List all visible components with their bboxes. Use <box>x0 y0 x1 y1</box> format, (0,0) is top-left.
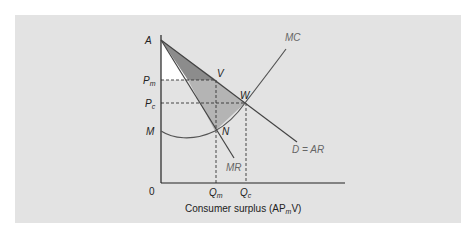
point-w-label: W <box>240 90 251 101</box>
qm-label: Qm <box>209 187 223 199</box>
mc-label: MC <box>285 32 301 43</box>
pc-label: Pc <box>145 98 156 110</box>
light-shaded-area <box>188 80 245 131</box>
mr-label: MR <box>226 162 242 173</box>
demand-label: D = AR <box>292 144 324 155</box>
qc-label: Qc <box>240 187 252 199</box>
figure-caption: Consumer surplus (APmV) <box>185 203 301 215</box>
point-v-label: V <box>217 68 225 79</box>
point-n-label: N <box>222 126 230 137</box>
origin-label: 0 <box>149 186 155 197</box>
m-label: M <box>146 126 155 137</box>
monopoly-diagram: A V W N Pm Pc M 0 Qm Qc MC MR D = AR Con… <box>0 0 473 239</box>
pm-label: Pm <box>143 75 156 87</box>
point-a-label: A <box>144 35 152 46</box>
